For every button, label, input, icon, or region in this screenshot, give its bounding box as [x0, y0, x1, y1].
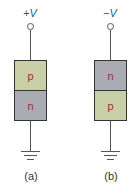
voltage-label-a: +V	[15, 7, 45, 19]
wire-top-a	[30, 30, 31, 60]
n-region-a: n	[14, 90, 47, 121]
p-region-b: p	[94, 90, 127, 121]
wire-top-b	[110, 30, 111, 60]
caption-b: (b)	[96, 170, 126, 182]
wire-bottom-a	[30, 121, 31, 151]
caption-a: (a)	[16, 170, 46, 182]
terminal-icon	[107, 23, 114, 30]
n-region-b: n	[94, 60, 127, 91]
wire-bottom-b	[110, 121, 111, 151]
p-region-a: p	[14, 60, 47, 91]
voltage-label-b: −V	[95, 7, 125, 19]
terminal-icon	[27, 23, 34, 30]
